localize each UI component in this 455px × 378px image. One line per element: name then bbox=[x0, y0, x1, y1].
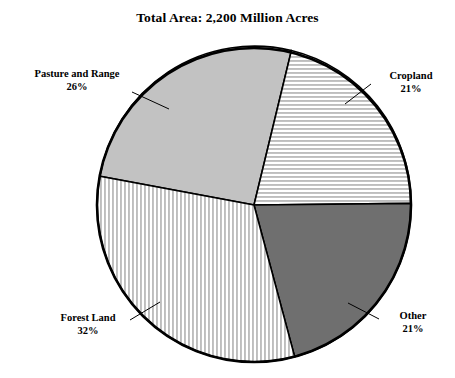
slice-label-forest-land-percent: 32% bbox=[36, 325, 140, 338]
slice-label-pasture-and-range-name: Pasture and Range bbox=[35, 68, 120, 79]
pie-chart-figure: Total Area: 2,200 Million Acres bbox=[0, 0, 455, 378]
slice-label-pasture-and-range-percent: 26% bbox=[12, 81, 142, 94]
slice-label-forest-land: Forest Land 32% bbox=[36, 312, 140, 337]
slice-label-cropland-percent: 21% bbox=[375, 83, 447, 96]
slice-label-other: Other 21% bbox=[382, 310, 444, 335]
slice-label-other-name: Other bbox=[400, 310, 427, 321]
slice-label-cropland-name: Cropland bbox=[390, 70, 433, 81]
slice-label-forest-land-name: Forest Land bbox=[61, 312, 116, 323]
slice-label-cropland: Cropland 21% bbox=[375, 70, 447, 95]
slice-label-pasture-and-range: Pasture and Range 26% bbox=[12, 68, 142, 93]
slice-label-other-percent: 21% bbox=[382, 323, 444, 336]
